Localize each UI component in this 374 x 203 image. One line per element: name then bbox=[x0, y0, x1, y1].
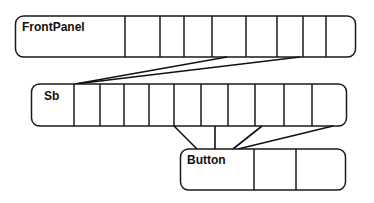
button-label: Button bbox=[187, 154, 226, 166]
frontpanel-sb-links bbox=[75, 57, 300, 84]
sb-button-links bbox=[174, 126, 333, 149]
sb-node bbox=[32, 84, 347, 126]
sb-label: Sb bbox=[44, 90, 59, 102]
frontpanel-label: FrontPanel bbox=[22, 21, 85, 33]
